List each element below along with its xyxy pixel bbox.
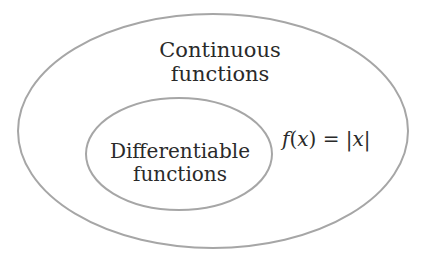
label-line: Continuous <box>140 38 300 62</box>
label-line: Differentiable <box>100 140 260 163</box>
formula-equals: = <box>316 127 345 151</box>
label-line: functions <box>100 163 260 186</box>
example-formula: f(x) = |x| <box>282 128 371 151</box>
differentiable-functions-label: Differentiable functions <box>100 140 260 186</box>
continuous-functions-label: Continuous functions <box>140 38 300 86</box>
formula-x: x <box>297 127 308 151</box>
label-line: functions <box>140 62 300 86</box>
formula-abs-bar: | <box>346 127 353 151</box>
formula-abs-bar: | <box>364 127 371 151</box>
formula-x: x <box>353 127 364 151</box>
